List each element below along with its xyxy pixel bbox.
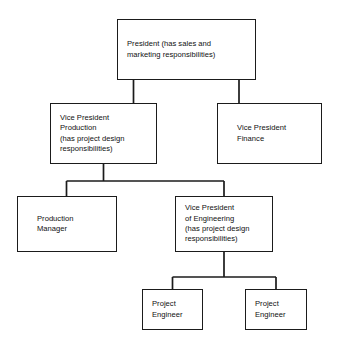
- org-chart: President (has sales and marketing respo…: [0, 0, 338, 345]
- org-node-project-engineer-2[interactable]: Project Engineer: [245, 289, 307, 330]
- org-node-project-engineer-1-label: Project Engineer: [143, 299, 202, 320]
- org-node-president[interactable]: President (has sales and marketing respo…: [117, 19, 256, 80]
- org-node-project-engineer-2-label: Project Engineer: [246, 299, 306, 320]
- org-node-vp-production-label: Vice President Production (has project d…: [51, 113, 156, 155]
- org-node-project-engineer-1[interactable]: Project Engineer: [142, 289, 203, 330]
- org-node-president-label: President (has sales and marketing respo…: [118, 39, 255, 60]
- org-node-vp-finance[interactable]: Vice President Finance: [217, 103, 322, 164]
- org-node-production-manager-label: Production Manager: [18, 214, 116, 235]
- org-node-production-manager[interactable]: Production Manager: [17, 196, 117, 252]
- org-node-vp-finance-label: Vice President Finance: [218, 123, 321, 144]
- org-node-vp-production[interactable]: Vice President Production (has project d…: [50, 103, 157, 164]
- org-node-vp-engineering-label: Vice President of Engineering (has proje…: [176, 203, 272, 245]
- org-node-vp-engineering[interactable]: Vice President of Engineering (has proje…: [175, 196, 273, 252]
